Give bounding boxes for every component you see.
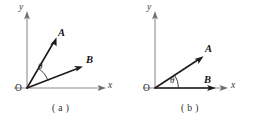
panel-b-vector-b-label: B bbox=[204, 75, 211, 86]
panel-b-angle-arc bbox=[175, 75, 179, 88]
panel-b-x-axis-label: x bbox=[231, 81, 235, 91]
panel-a-vector-b-shaft bbox=[27, 69, 78, 88]
panel-b-caption: ( b ) bbox=[181, 104, 199, 114]
panel-b-angle-label: θ bbox=[170, 76, 174, 85]
panel-b-origin-label: O bbox=[143, 84, 150, 94]
panel-a-drawing bbox=[14, 11, 106, 91]
panel-b-vector-a-shaft bbox=[155, 60, 199, 89]
panel-a-vector-b-label: B bbox=[86, 55, 93, 66]
panel-b-drawing bbox=[143, 11, 228, 91]
panel-a-x-axis-label: x bbox=[108, 81, 112, 91]
panel-b-y-axis-label: y bbox=[147, 3, 151, 13]
panel-a-caption: ( a ) bbox=[52, 104, 69, 114]
vector-angle-figure: y x O A B θ ( a ) y x O A B θ ( b ) bbox=[0, 0, 255, 125]
panel-b-vector-a-label: A bbox=[205, 44, 212, 55]
panel-a-y-axis-label: y bbox=[19, 3, 23, 13]
panel-a-vector-a-label: A bbox=[58, 28, 65, 39]
panel-a-origin-label: O bbox=[15, 84, 22, 94]
panel-b-vector-a-arrowhead bbox=[195, 56, 204, 64]
panel-a-angle-label: θ bbox=[38, 62, 42, 71]
